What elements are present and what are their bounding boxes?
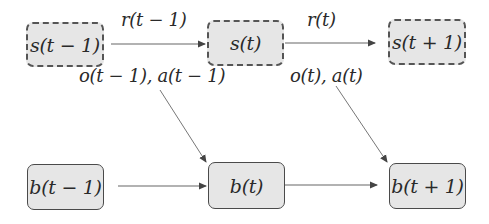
node-b-curr: b(t) [208, 162, 285, 209]
node-b-next-label: b(t + 1) [391, 175, 463, 197]
node-s-next-label: s(t + 1) [392, 31, 462, 53]
node-b-prev-label: b(t − 1) [29, 176, 101, 198]
node-s-prev-label: s(t − 1) [30, 34, 100, 56]
arrow-obs-action-prev-to-b-curr [160, 90, 206, 162]
node-s-curr-label: s(t) [230, 32, 261, 54]
arrow-obs-action-curr-to-b-next [336, 86, 387, 162]
node-b-curr-label: b(t) [230, 175, 263, 197]
edge-label-obs-action-curr: o(t), a(t) [290, 65, 363, 86]
node-b-next: b(t + 1) [389, 163, 466, 209]
node-s-next: s(t + 1) [388, 19, 466, 65]
belief-state-diagram: s(t − 1) s(t) s(t + 1) b(t − 1) b(t) b(t… [0, 0, 489, 224]
node-b-prev: b(t − 1) [27, 164, 104, 210]
node-s-curr: s(t) [207, 20, 284, 66]
edge-label-obs-action-prev: o(t − 1), a(t − 1) [79, 65, 225, 86]
edge-label-reward-curr: r(t) [307, 9, 336, 30]
edge-label-reward-prev: r(t − 1) [121, 9, 186, 30]
node-s-prev: s(t − 1) [26, 22, 104, 67]
